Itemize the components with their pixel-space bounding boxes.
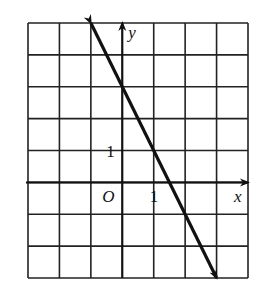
y-axis-label: y [126,23,136,42]
x-axis-label: x [233,187,242,206]
coordinate-plane: y x O 1 1 [0,0,262,307]
y-tick-label: 1 [106,142,115,161]
grid [28,23,248,278]
x-tick-label: 1 [150,187,159,206]
origin-label: O [102,187,114,206]
